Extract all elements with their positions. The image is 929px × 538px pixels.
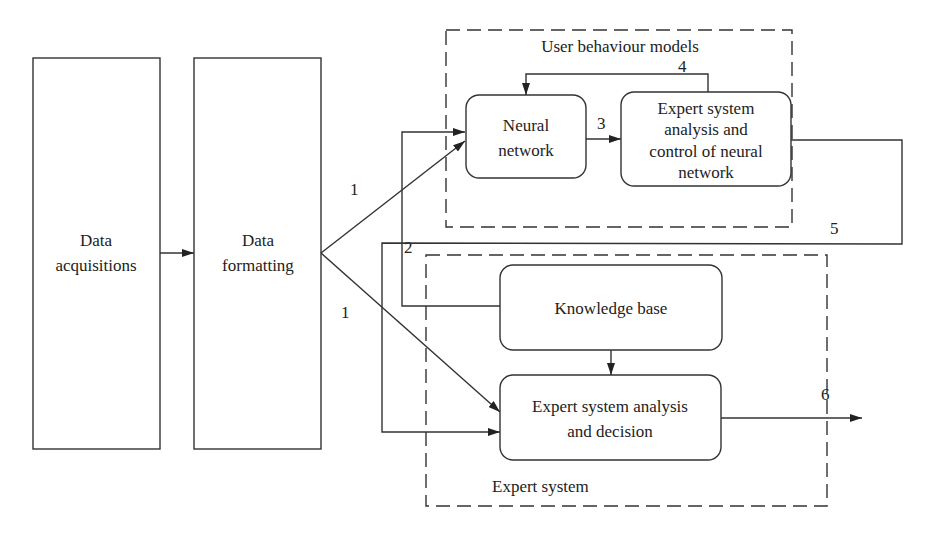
edge-1-formatting-to-expert-decision	[321, 253, 500, 412]
data-acquisitions-line2: acquisitions	[55, 256, 136, 275]
expert-decision-line2: and decision	[567, 422, 653, 441]
node-expert-decision: Expert system analysis and decision	[500, 375, 721, 460]
node-knowledge-base: Knowledge base	[500, 265, 722, 350]
edge-label-5: 5	[830, 219, 839, 238]
edge-label-3: 3	[597, 114, 606, 133]
data-formatting-line1: Data	[242, 231, 275, 250]
edge-label-4: 4	[678, 57, 687, 76]
neural-network-line1: Neural	[503, 116, 550, 135]
node-data-acquisitions: Data acquisitions	[33, 58, 160, 449]
edge-label-2: 2	[404, 238, 413, 257]
expert-control-line3: control of neural	[649, 142, 763, 161]
expert-system-label: Expert system	[492, 477, 589, 496]
neural-network-line2: network	[498, 141, 554, 160]
expert-control-line1: Expert system	[658, 99, 755, 118]
data-formatting-line2: formatting	[222, 256, 294, 275]
data-acquisitions-line1: Data	[80, 231, 113, 250]
node-expert-control: Expert system analysis and control of ne…	[621, 92, 791, 186]
node-neural-network: Neural network	[466, 95, 586, 178]
edge-label-6: 6	[821, 385, 830, 404]
edge-label-1-up: 1	[350, 180, 359, 199]
expert-decision-line1: Expert system analysis	[532, 397, 688, 416]
edge-label-1-down: 1	[341, 303, 350, 322]
edge-1-formatting-to-neural-network	[321, 141, 465, 253]
user-behaviour-label: User behaviour models	[541, 37, 699, 56]
expert-control-line4: network	[678, 163, 734, 182]
knowledge-base-text: Knowledge base	[555, 299, 668, 318]
expert-control-line2: analysis and	[664, 120, 748, 139]
system-diagram: User behaviour models Expert system Data…	[0, 0, 929, 538]
node-data-formatting: Data formatting	[194, 58, 321, 449]
